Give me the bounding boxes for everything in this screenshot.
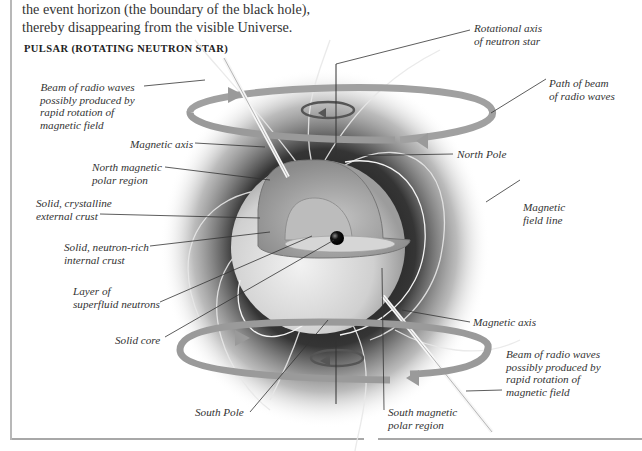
label-line: possibly produced by [40, 94, 135, 107]
label-line: field line [523, 214, 565, 227]
label-north-magnetic-polar-region: North magnetic polar region [92, 161, 162, 186]
label-solid-core: Solid core [115, 334, 160, 347]
label-line: Solid, neutron-rich [64, 241, 149, 254]
label-magnetic-field-line: Magnetic field line [523, 201, 565, 226]
label-line: Rotational axis [474, 22, 542, 35]
label-line: rapid rotation of [40, 106, 135, 119]
label-beam-right: Beam of radio waves possibly produced by… [506, 348, 601, 398]
label-external-crust: Solid, crystalline external crust [36, 197, 112, 222]
label-line: Beam of radio waves [40, 81, 135, 94]
label-magnetic-axis-bottom: Magnetic axis [473, 316, 536, 329]
label-line: polar region [388, 419, 457, 432]
label-line: of neutron star [474, 35, 542, 48]
solid-core [330, 231, 344, 245]
label-line: polar region [92, 174, 162, 187]
label-magnetic-axis-top: Magnetic axis [130, 138, 193, 151]
label-line: North magnetic [92, 161, 162, 174]
label-line: possibly produced by [506, 361, 601, 374]
label-line: internal crust [64, 254, 149, 267]
label-beam-left: Beam of radio waves possibly produced by… [40, 81, 135, 131]
label-line: Path of beam [549, 77, 615, 90]
label-line: Layer of [73, 285, 160, 298]
label-south-pole: South Pole [195, 406, 244, 419]
label-line: superfluid neutrons [73, 298, 160, 311]
label-internal-crust: Solid, neutron-rich internal crust [64, 241, 149, 266]
label-north-pole: North Pole [457, 148, 506, 161]
label-line: rapid rotation of [506, 373, 601, 386]
label-line: of radio waves [549, 90, 615, 103]
label-line: Beam of radio waves [506, 348, 601, 361]
label-line: Magnetic [523, 201, 565, 214]
label-rotational-axis: Rotational axis of neutron star [474, 22, 542, 47]
label-line: external crust [36, 210, 112, 223]
label-line: magnetic field [40, 119, 135, 132]
label-line: South magnetic [388, 406, 457, 419]
label-path-of-beam: Path of beam of radio waves [549, 77, 615, 102]
label-superfluid-neutrons: Layer of superfluid neutrons [73, 285, 160, 310]
label-line: Solid, crystalline [36, 197, 112, 210]
label-south-magnetic-polar-region: South magnetic polar region [388, 406, 457, 431]
label-line: magnetic field [506, 386, 601, 399]
